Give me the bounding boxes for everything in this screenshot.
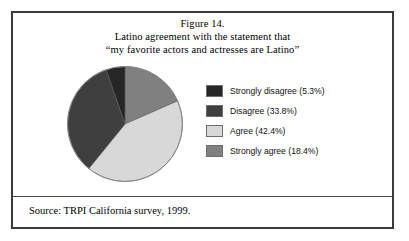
legend-item-agree: Agree (42.4%) <box>206 121 381 141</box>
legend-swatch-strongly-disagree <box>206 85 223 97</box>
pie-chart <box>66 65 184 183</box>
pie-slices <box>68 67 183 182</box>
title-line-1: Figure 14. <box>13 18 392 31</box>
legend-swatch-agree <box>206 125 223 137</box>
pie-chart-svg <box>66 65 184 183</box>
legend-item-strongly-agree: Strongly agree (18.4%) <box>206 141 381 161</box>
legend-label-strongly-agree: Strongly agree (18.4%) <box>230 147 318 156</box>
legend: Strongly disagree (5.3%) Disagree (33.8%… <box>206 81 381 161</box>
legend-swatch-disagree <box>206 105 223 117</box>
source-note: Source: TRPI California survey, 1999. <box>29 205 190 216</box>
chart-area: Strongly disagree (5.3%) Disagree (33.8%… <box>13 61 392 193</box>
title-line-3: “my favorite actors and actresses are La… <box>13 44 392 57</box>
figure-title: Figure 14. Latino agreement with the sta… <box>13 18 392 56</box>
legend-swatch-strongly-agree <box>206 145 223 157</box>
title-line-2: Latino agreement with the statement that <box>13 31 392 44</box>
legend-label-agree: Agree (42.4%) <box>230 127 285 136</box>
legend-item-strongly-disagree: Strongly disagree (5.3%) <box>206 81 381 101</box>
legend-label-disagree: Disagree (33.8%) <box>230 107 297 116</box>
figure-frame: Figure 14. Latino agreement with the sta… <box>11 11 394 229</box>
source-divider <box>13 196 392 197</box>
legend-label-strongly-disagree: Strongly disagree (5.3%) <box>230 87 325 96</box>
legend-item-disagree: Disagree (33.8%) <box>206 101 381 121</box>
